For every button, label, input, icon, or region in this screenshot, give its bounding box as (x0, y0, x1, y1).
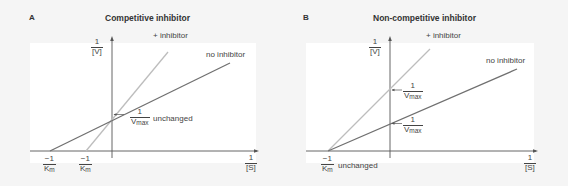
panel-non-competitive-inhibitor: B Non-competitive inhibitor 1 [V] 1 [S] … (284, 0, 568, 186)
x-intercept-no-inhibitor-label: −1 Km (43, 155, 56, 174)
y-intercept-label: 1 Vmax (130, 108, 150, 127)
y-axis-label: 1 [V] (91, 38, 103, 56)
x-axis-label: 1 [S] (524, 154, 536, 172)
unchanged-note: unchanged (153, 114, 193, 123)
legend-no-inhibitor-label: no inhibitor (206, 50, 245, 59)
x-intercept-label: −1 Km (321, 155, 334, 174)
legend-inhibitor-label: + inhibitor (426, 31, 461, 40)
y-axis-arrow-icon (388, 36, 392, 41)
legend-no-inhibitor-label: no inhibitor (486, 56, 525, 65)
y-axis-label: 1 [V] (369, 38, 381, 56)
unchanged-note: unchanged (338, 161, 378, 170)
x-axis-arrow-icon (254, 149, 259, 153)
y-intercept-inhibitor-label: 1 Vmax (403, 82, 423, 101)
x-intercept-inhibitor-label: −1 Km (79, 155, 92, 174)
legend-inhibitor-label: + inhibitor (153, 31, 188, 40)
y-axis-arrow-icon (110, 36, 114, 41)
panel-competitive-inhibitor: A Competitive inhibitor 1 [V] 1 [S] + in… (0, 0, 284, 186)
x-axis-arrow-icon (533, 149, 538, 153)
y-intercept-no-inhibitor-label: 1 Vmax (403, 116, 423, 135)
x-axis-label: 1 [S] (245, 154, 257, 172)
plot-area (30, 43, 256, 163)
